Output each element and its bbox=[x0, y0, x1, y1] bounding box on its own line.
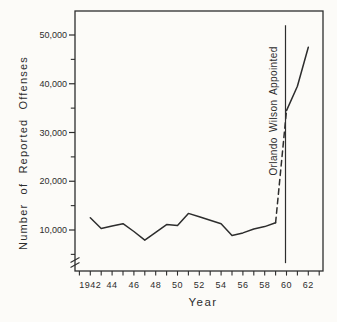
x-tick-label: 58 bbox=[259, 280, 270, 290]
y-tick-label: 50,000 bbox=[39, 30, 67, 40]
x-tick-label: 1942 bbox=[79, 280, 101, 290]
x-tick-label: 50 bbox=[172, 280, 183, 290]
y-tick-label: 10,000 bbox=[39, 225, 67, 235]
series-reported-offenses-1942-1959 bbox=[90, 213, 275, 240]
x-tick-label: 48 bbox=[150, 280, 161, 290]
x-tick-label: 52 bbox=[194, 280, 205, 290]
y-tick-label: 20,000 bbox=[39, 176, 67, 186]
y-tick-label: 30,000 bbox=[39, 128, 67, 138]
x-axis-title: Year bbox=[188, 296, 217, 308]
series-reported-offenses-1960-1962 bbox=[287, 47, 309, 110]
x-tick-label: 62 bbox=[303, 280, 314, 290]
chart-figure: 10,00020,00030,00040,00050,0001942444648… bbox=[0, 0, 337, 322]
y-axis-title: Number of Reported Offenses bbox=[17, 56, 29, 250]
offenses-line-chart: 10,00020,00030,00040,00050,0001942444648… bbox=[0, 0, 337, 322]
y-tick-label: 40,000 bbox=[39, 79, 67, 89]
annotation-label: Orlando Wilson Appointed bbox=[268, 46, 279, 175]
x-tick-label: 60 bbox=[281, 280, 292, 290]
x-tick-label: 46 bbox=[128, 280, 139, 290]
x-tick-label: 56 bbox=[237, 280, 248, 290]
x-tick-label: 44 bbox=[107, 280, 118, 290]
x-tick-label: 54 bbox=[216, 280, 227, 290]
